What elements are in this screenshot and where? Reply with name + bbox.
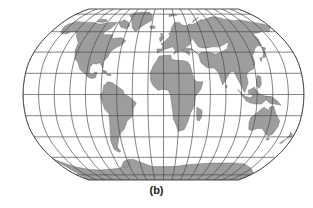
figure-panel: (b): [0, 0, 313, 208]
world-map-projection: [0, 0, 313, 190]
figure-caption: (b): [0, 184, 313, 196]
landmass-hispaniola: [107, 74, 112, 75]
